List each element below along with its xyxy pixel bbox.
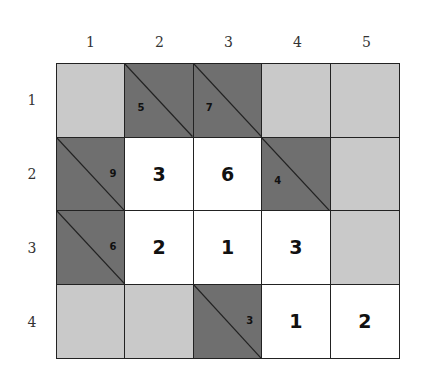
down-clue: 5	[137, 102, 144, 113]
entry-digit: 1	[262, 285, 329, 359]
entry-cell[interactable]: 1	[194, 211, 262, 285]
across-clue: 9	[109, 168, 116, 179]
entry-cell[interactable]: 2	[331, 285, 399, 359]
column-label: 4	[263, 34, 332, 50]
clue-cell: 7	[194, 64, 262, 138]
row-label: 3	[22, 211, 42, 285]
column-label: 2	[125, 34, 194, 50]
entry-cell[interactable]: 2	[125, 211, 193, 285]
clue-cell: 3	[194, 285, 262, 359]
row-label: 1	[22, 63, 42, 137]
entry-digit: 3	[262, 211, 329, 284]
clue-cell: 6	[57, 211, 125, 285]
entry-digit: 2	[125, 211, 192, 284]
entry-digit: 3	[125, 138, 192, 211]
blank-cell	[57, 285, 125, 359]
kakuro-grid: 5793646213312	[56, 63, 400, 359]
column-label: 3	[194, 34, 263, 50]
down-clue: 7	[206, 102, 213, 113]
down-clue: 4	[274, 175, 281, 186]
entry-cell[interactable]: 3	[262, 211, 330, 285]
clue-cell: 5	[125, 64, 193, 138]
entry-digit: 6	[194, 138, 261, 211]
across-clue: 3	[246, 315, 253, 326]
entry-cell[interactable]: 1	[262, 285, 330, 359]
entry-digit: 2	[331, 285, 399, 359]
blank-cell	[125, 285, 193, 359]
row-label: 4	[22, 285, 42, 359]
diagonal-divider-icon	[262, 138, 329, 211]
diagonal-divider-icon	[125, 64, 192, 137]
entry-digit: 1	[194, 211, 261, 284]
blank-cell	[331, 64, 399, 138]
diagonal-divider-icon	[194, 64, 261, 137]
entry-cell[interactable]: 3	[125, 138, 193, 212]
row-label: 2	[22, 137, 42, 211]
across-clue: 6	[109, 241, 116, 252]
clue-cell: 9	[57, 138, 125, 212]
blank-cell	[331, 211, 399, 285]
blank-cell	[262, 64, 330, 138]
column-label: 1	[56, 34, 125, 50]
entry-cell[interactable]: 6	[194, 138, 262, 212]
column-label: 5	[332, 34, 401, 50]
clue-cell: 4	[262, 138, 330, 212]
blank-cell	[57, 64, 125, 138]
blank-cell	[331, 138, 399, 212]
